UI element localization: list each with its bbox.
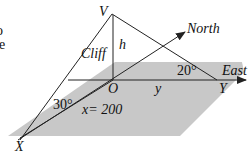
label-o: O	[108, 82, 118, 96]
ground-plane	[8, 62, 244, 136]
label-x-point: X	[15, 140, 24, 151]
label-angle-30: 30°	[53, 98, 73, 112]
cut-text-2: e	[0, 38, 5, 52]
label-y-distance: y	[155, 82, 161, 96]
label-y-point: Y	[219, 82, 227, 96]
label-north: North	[187, 22, 220, 36]
cut-text-1: o	[0, 24, 3, 38]
label-angle-20: 20°	[177, 64, 197, 78]
label-east: East	[222, 64, 247, 78]
label-v: V	[99, 5, 108, 19]
label-x-equals: x= 200	[82, 103, 122, 117]
label-h: h	[119, 38, 126, 52]
label-cliff: Cliff	[81, 47, 106, 61]
